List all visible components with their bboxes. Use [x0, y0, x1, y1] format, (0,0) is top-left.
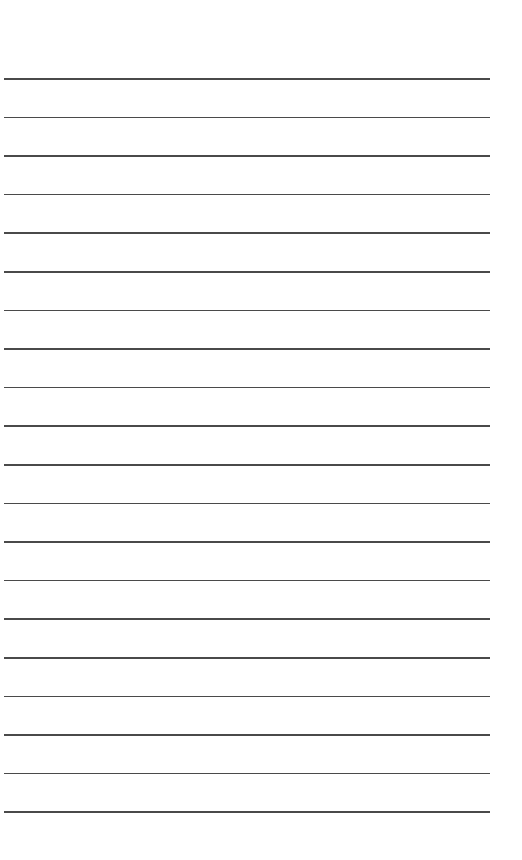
- ruled-line: [4, 387, 490, 389]
- ruled-line: [4, 155, 490, 157]
- ruled-line: [4, 657, 490, 659]
- ruled-line: [4, 117, 490, 119]
- ruled-line: [4, 464, 490, 466]
- ruled-line: [4, 811, 490, 813]
- ruled-line: [4, 618, 490, 620]
- ruled-line: [4, 232, 490, 234]
- ruled-line: [4, 425, 490, 427]
- ruled-line: [4, 580, 490, 582]
- ruled-line: [4, 194, 490, 196]
- ruled-line: [4, 503, 490, 505]
- ruled-line: [4, 696, 490, 698]
- ruled-line: [4, 541, 490, 543]
- ruled-line: [4, 310, 490, 312]
- ruled-line: [4, 773, 490, 775]
- lined-page: [0, 0, 522, 860]
- ruled-line: [4, 271, 490, 273]
- ruled-line: [4, 348, 490, 350]
- ruled-line: [4, 734, 490, 736]
- ruled-line: [4, 78, 490, 80]
